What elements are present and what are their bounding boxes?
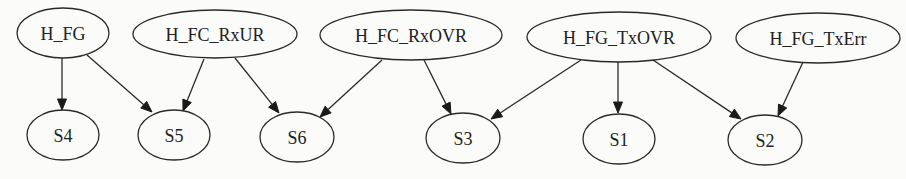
edge-h-fg-txerr-to-s2 xyxy=(778,62,803,116)
node-label: H_FG_TxErr xyxy=(770,29,867,49)
node-s1: S1 xyxy=(583,114,655,164)
node-h-fg: H_FG xyxy=(17,8,109,58)
node-s6: S6 xyxy=(260,112,334,162)
node-h-fg-txovr: H_FG_TxOVR xyxy=(527,12,711,62)
edge-h-fc-rxur-to-s6 xyxy=(235,58,279,113)
edge-h-fg-to-s5 xyxy=(87,55,152,112)
node-label: S1 xyxy=(609,130,628,150)
arrowhead-icon xyxy=(442,102,451,114)
edge-h-fg-txovr-to-s2 xyxy=(653,60,741,119)
edge-h-fg-to-s4 xyxy=(58,58,67,110)
edge-h-fg-txovr-to-s3 xyxy=(491,60,581,119)
nodes-layer: H_FGH_FC_RxURH_FC_RxOVRH_FG_TxOVRH_FG_Tx… xyxy=(17,8,900,165)
edge-line xyxy=(87,55,144,105)
node-h-fg-txerr: H_FG_TxErr xyxy=(736,13,900,63)
arrowhead-icon xyxy=(269,102,279,113)
node-label: H_FG xyxy=(40,24,85,44)
arrowhead-icon xyxy=(58,99,67,110)
node-label: H_FC_RxOVR xyxy=(355,26,467,46)
edge-h-fg-txovr-to-s1 xyxy=(614,62,623,113)
edge-h-fc-rxur-to-s5 xyxy=(183,59,204,111)
arrowhead-icon xyxy=(183,99,191,111)
arrowhead-icon xyxy=(614,102,623,113)
edge-h-fc-rxovr-to-s6 xyxy=(320,60,382,117)
node-s2: S2 xyxy=(728,115,802,165)
node-h-fc-rxur: H_FC_RxUR xyxy=(133,10,297,58)
node-s4: S4 xyxy=(27,110,99,160)
node-label: S2 xyxy=(755,131,774,151)
dependency-graph: H_FGH_FC_RxURH_FC_RxOVRH_FG_TxOVRH_FG_Tx… xyxy=(0,0,906,179)
edge-line xyxy=(424,60,446,104)
node-label: S3 xyxy=(453,129,472,149)
edge-line xyxy=(187,59,204,101)
arrowhead-icon xyxy=(729,109,741,119)
node-s5: S5 xyxy=(138,110,210,160)
edge-line xyxy=(783,62,803,106)
node-label: S6 xyxy=(287,128,306,148)
edge-line xyxy=(235,58,272,104)
arrowhead-icon xyxy=(491,109,503,119)
node-label: S5 xyxy=(164,126,183,146)
edge-line xyxy=(653,60,732,113)
node-label: H_FC_RxUR xyxy=(165,25,264,45)
node-label: H_FG_TxOVR xyxy=(563,28,675,48)
node-h-fc-rxovr: H_FC_RxOVR xyxy=(320,10,502,60)
node-label: S4 xyxy=(53,126,72,146)
edge-h-fc-rxovr-to-s3 xyxy=(424,60,451,114)
node-s3: S3 xyxy=(426,113,500,163)
edge-line xyxy=(328,60,382,110)
arrowhead-icon xyxy=(778,104,787,116)
edges-layer xyxy=(58,55,804,119)
edge-line xyxy=(500,60,581,113)
